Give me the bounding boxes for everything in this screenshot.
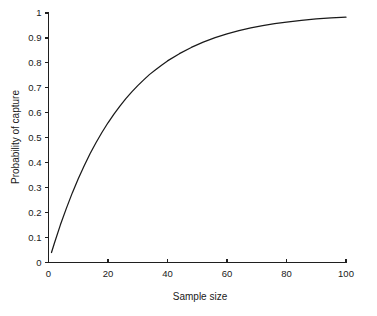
x-tick-label: 40 bbox=[162, 268, 173, 279]
y-axis-group: 00.10.20.30.40.50.60.70.80.91 Probabilit… bbox=[10, 7, 49, 268]
x-axis-title: Sample size bbox=[173, 291, 228, 302]
y-tick-label: 0.9 bbox=[28, 32, 41, 43]
figure-container: 00.10.20.30.40.50.60.70.80.91 Probabilit… bbox=[0, 0, 377, 316]
y-tick-label: 0.3 bbox=[28, 182, 41, 193]
y-tick-label: 0.7 bbox=[28, 82, 41, 93]
y-tick-label: 0.6 bbox=[28, 107, 41, 118]
x-axis-group: 020406080100 Sample size bbox=[46, 259, 354, 303]
y-tick-group: 00.10.20.30.40.50.60.70.80.91 bbox=[28, 7, 48, 268]
y-tick-label: 1 bbox=[36, 7, 41, 18]
y-tick-label: 0.4 bbox=[28, 157, 41, 168]
y-tick-label: 0.1 bbox=[28, 232, 41, 243]
y-tick-label: 0.8 bbox=[28, 57, 41, 68]
data-curve-probability-of-capture bbox=[51, 17, 346, 252]
probability-of-capture-chart: 00.10.20.30.40.50.60.70.80.91 Probabilit… bbox=[0, 0, 377, 316]
x-tick-label: 60 bbox=[222, 268, 233, 279]
y-tick-label: 0 bbox=[36, 257, 41, 268]
y-tick-label: 0.2 bbox=[28, 207, 41, 218]
x-tick-label: 20 bbox=[103, 268, 114, 279]
x-tick-group: 020406080100 bbox=[46, 259, 354, 279]
y-tick-label: 0.5 bbox=[28, 132, 41, 143]
x-tick-label: 0 bbox=[46, 268, 51, 279]
y-axis-title: Probability of capture bbox=[10, 90, 21, 184]
x-tick-label: 80 bbox=[281, 268, 292, 279]
x-tick-label: 100 bbox=[338, 268, 354, 279]
